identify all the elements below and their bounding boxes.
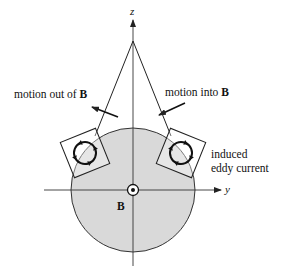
z-axis-label: z <box>130 6 134 17</box>
y-axis-label: y <box>225 184 230 195</box>
eddy-label-line1: induced <box>211 149 247 161</box>
motion-into-arrow-icon <box>159 103 185 115</box>
motion-out-label: motion out of B <box>14 89 87 101</box>
eddy-current-pendulum-diagram <box>0 0 284 274</box>
eddy-label-line2: eddy current <box>211 163 269 175</box>
magnetic-field-label: B <box>117 201 125 213</box>
field-out-of-page-icon <box>128 185 139 196</box>
motion-into-text: motion into <box>165 86 221 98</box>
motion-into-label: motion into B <box>165 87 229 99</box>
motion-into-field-symbol: B <box>221 86 229 98</box>
motion-out-field-symbol: B <box>80 88 88 100</box>
motion-out-arrow-icon <box>92 107 118 117</box>
motion-out-text: motion out of <box>14 88 80 100</box>
